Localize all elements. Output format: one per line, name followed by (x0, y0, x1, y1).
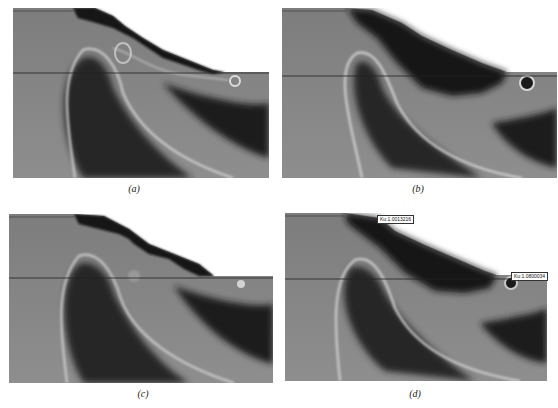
annotation-lower: Ku:1.0800034 (511, 272, 548, 281)
panel-b (282, 8, 557, 178)
panel-c (9, 214, 273, 383)
caption-d: (d) (395, 388, 435, 399)
caption-c: (c) (123, 388, 163, 399)
panel-a-plot (13, 8, 269, 178)
caption-b: (b) (398, 183, 438, 194)
panel-c-plot (9, 214, 273, 383)
panel-b-plot (282, 8, 557, 178)
caption-a: (a) (114, 183, 154, 194)
panel-d-plot (285, 213, 547, 381)
annotation-upper: Ku:1.0013216 (377, 215, 414, 224)
panel-a (13, 8, 269, 178)
panel-d: Ku:1.0013216 Ku:1.0800034 (285, 213, 547, 381)
